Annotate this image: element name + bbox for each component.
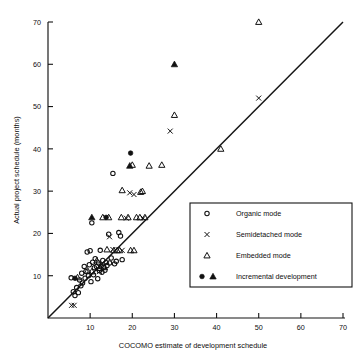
point-0-37-open-circle-marker	[111, 171, 115, 175]
x-axis-title: COCOMO estimate of development schedule	[119, 341, 267, 350]
point-3-4-filled-circle-marker	[128, 151, 133, 156]
y-axis-title: Actual project schedule (months)	[12, 116, 21, 224]
point-2-23-open-triangle-marker	[146, 163, 152, 169]
point-2-25-open-triangle-marker	[171, 112, 177, 118]
legend-entry-incremental-development-label: Incremental development	[236, 272, 317, 281]
x-tick-label-60: 60	[297, 323, 305, 332]
y-tick-label-10: 10	[33, 272, 41, 281]
x-tick-label-50: 50	[255, 323, 263, 332]
legend-entry-incremental-development-a-filled-circle-marker	[200, 274, 205, 279]
y-tick-label-50: 50	[33, 102, 41, 111]
point-1-8-x-marker	[131, 192, 136, 197]
point-2-27-open-triangle-marker	[256, 19, 262, 25]
legend-entry-embedded-mode-label: Embedded mode	[236, 251, 291, 260]
point-2-24-open-triangle-marker	[159, 162, 165, 168]
point-0-36-open-circle-marker	[109, 256, 113, 260]
x-tick-label-30: 30	[170, 323, 178, 332]
point-1-0-x-marker	[69, 303, 74, 308]
cocomo-scatter-plot-figure: 1020304050607010203040506070 Organic mod…	[0, 0, 361, 357]
point-3-5-filled-triangle-marker	[171, 61, 177, 67]
point-2-20-open-triangle-marker	[119, 187, 125, 193]
y-tick-label-20: 20	[33, 229, 41, 238]
chart-legend: Organic modeSemidetached modeEmbedded mo…	[190, 203, 352, 287]
x-tick-label-40: 40	[213, 323, 221, 332]
point-0-9-open-circle-marker	[82, 264, 86, 268]
point-3-1-filled-triangle-marker	[89, 214, 95, 220]
chart-canvas: 1020304050607010203040506070 Organic mod…	[0, 0, 361, 357]
point-3-0-filled-circle-marker	[73, 276, 78, 281]
series-incremental-development	[73, 61, 178, 280]
x-tick-label-10: 10	[86, 323, 94, 332]
y-tick-label-60: 60	[33, 60, 41, 69]
point-0-17-open-circle-marker	[90, 221, 94, 225]
point-2-7-open-triangle-marker	[104, 246, 110, 252]
y-tick-label-30: 30	[33, 187, 41, 196]
point-3-3-filled-triangle-marker	[127, 163, 133, 169]
point-0-16-open-circle-marker	[89, 279, 93, 283]
point-1-1-x-marker	[72, 303, 77, 308]
y-tick-label-40: 40	[33, 145, 41, 154]
y-tick-label-70: 70	[33, 18, 41, 27]
point-2-12-open-triangle-marker	[118, 214, 124, 220]
point-0-42-open-circle-marker	[120, 257, 124, 261]
x-tick-label-20: 20	[128, 323, 136, 332]
point-1-11-x-marker	[256, 96, 261, 101]
legend-entry-semidetached-mode-label: Semidetached mode	[236, 230, 302, 239]
point-3-2-filled-circle-marker	[104, 215, 109, 220]
legend-entry-organic-mode-label: Organic mode	[236, 209, 281, 218]
x-tick-label-70: 70	[339, 323, 347, 332]
point-0-26-open-circle-marker	[98, 248, 102, 252]
point-0-23-open-circle-marker	[96, 276, 100, 280]
point-0-4-open-circle-marker	[76, 290, 80, 294]
point-1-10-x-marker	[168, 129, 173, 134]
point-1-7-x-marker	[127, 190, 132, 195]
